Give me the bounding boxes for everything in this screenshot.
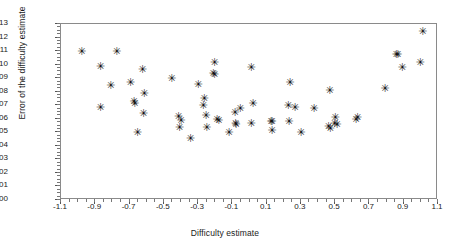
- x-axis-minor-tick: [360, 199, 361, 202]
- x-axis-minor-tick: [111, 199, 112, 202]
- data-point: ✳: [138, 63, 147, 74]
- data-point: ✳: [284, 116, 293, 127]
- y-axis-tick-label: 0.10: [0, 60, 8, 68]
- data-point: ✳: [214, 115, 223, 126]
- x-axis-minor-tick: [103, 199, 104, 202]
- x-axis-minor-tick: [317, 199, 318, 202]
- data-point: ✳: [140, 88, 149, 99]
- data-point: ✳: [397, 62, 406, 73]
- x-axis-minor-tick: [377, 199, 378, 202]
- data-point: ✳: [175, 121, 184, 132]
- y-axis-tick-label: 0.06: [0, 114, 8, 122]
- x-axis-minor-tick: [308, 199, 309, 202]
- x-axis-minor-tick: [69, 199, 70, 202]
- data-point: ✳: [77, 46, 86, 57]
- x-axis-minor-tick: [240, 199, 241, 202]
- data-point: ✳: [202, 121, 211, 132]
- y-axis-tick-label: 0.11: [0, 46, 8, 54]
- data-point: ✳: [267, 124, 276, 135]
- x-axis-minor-tick: [428, 199, 429, 202]
- data-point: ✳: [380, 82, 389, 93]
- data-point: ✳: [186, 132, 195, 143]
- y-axis-tick-label: 0.09: [0, 73, 8, 81]
- x-axis-minor-tick: [274, 199, 275, 202]
- x-axis-minor-tick: [171, 199, 172, 202]
- x-axis-minor-tick: [60, 199, 61, 202]
- x-axis-minor-tick: [403, 199, 404, 202]
- y-axis-tick-label: 0.00: [0, 195, 8, 203]
- x-axis-minor-tick: [437, 199, 438, 202]
- data-point: ✳: [167, 73, 176, 84]
- data-point: ✳: [247, 62, 256, 73]
- x-axis-minor-tick: [283, 199, 284, 202]
- data-point: ✳: [126, 77, 135, 88]
- x-axis-minor-tick: [137, 199, 138, 202]
- x-axis-title: Difficulty estimate: [0, 228, 450, 238]
- y-axis-tick-label: 0.02: [0, 168, 8, 176]
- y-axis-tick-label: 0.05: [0, 127, 8, 135]
- y-axis-tick-label: 0.01: [0, 181, 8, 189]
- data-point: ✳: [325, 85, 334, 96]
- data-point: ✳: [296, 127, 305, 138]
- data-point: ✳: [133, 127, 142, 138]
- x-axis-minor-tick: [146, 199, 147, 202]
- data-point: ✳: [201, 109, 210, 120]
- x-axis-minor-tick: [249, 199, 250, 202]
- data-point: ✳: [96, 101, 105, 112]
- scatter-plot-figure: Error of the difficulty estimate 0.000.0…: [0, 0, 450, 247]
- x-axis-minor-tick: [129, 199, 130, 202]
- x-axis-minor-tick: [300, 199, 301, 202]
- x-axis-minor-tick: [368, 199, 369, 202]
- data-point: ✳: [193, 78, 202, 89]
- data-point: ✳: [290, 101, 299, 112]
- x-axis-minor-tick: [257, 199, 258, 202]
- data-point: ✳: [309, 102, 318, 113]
- y-axis-title: Error of the difficulty estimate: [17, 0, 27, 153]
- x-axis-minor-tick: [266, 199, 267, 202]
- x-axis-minor-tick: [394, 199, 395, 202]
- x-axis-minor-tick: [223, 199, 224, 202]
- x-axis-minor-tick: [77, 199, 78, 202]
- x-axis-minor-tick: [351, 199, 352, 202]
- x-axis-minor-tick: [291, 199, 292, 202]
- x-axis-minor-tick: [231, 199, 232, 202]
- x-axis-minor-tick: [206, 199, 207, 202]
- y-axis-tick-label: 0.13: [0, 19, 8, 27]
- x-axis-minor-tick: [343, 199, 344, 202]
- data-point: ✳: [96, 60, 105, 71]
- data-point: ✳: [235, 102, 244, 113]
- data-point: ✳: [248, 97, 257, 108]
- data-point: ✳: [418, 25, 427, 36]
- data-point: ✳: [231, 119, 240, 130]
- x-axis-tick-label: 1.1: [417, 203, 450, 211]
- data-point: ✳: [393, 48, 402, 59]
- data-point: ✳: [285, 77, 294, 88]
- x-axis-minor-tick: [411, 199, 412, 202]
- x-axis-minor-tick: [334, 199, 335, 202]
- y-axis-tick-label: 0.03: [0, 154, 8, 162]
- data-point: ✳: [210, 69, 219, 80]
- y-axis-tick-label: 0.12: [0, 33, 8, 41]
- x-axis-minor-tick: [214, 199, 215, 202]
- x-axis-minor-tick: [386, 199, 387, 202]
- y-axis-tick-label: 0.04: [0, 141, 8, 149]
- x-axis-minor-tick: [120, 199, 121, 202]
- y-axis-tick-label: 0.08: [0, 87, 8, 95]
- data-point: ✳: [139, 108, 148, 119]
- data-point: ✳: [247, 117, 256, 128]
- x-axis-minor-tick: [180, 199, 181, 202]
- plot-area: ✳✳✳✳✳✳✳✳✳✳✳✳✳✳✳✳✳✳✳✳✳✳✳✳✳✳✳✳✳✳✳✳✳✳✳✳✳✳✳✳…: [60, 23, 437, 199]
- x-axis-minor-tick: [154, 199, 155, 202]
- x-axis-minor-tick: [420, 199, 421, 202]
- data-point: ✳: [353, 112, 362, 123]
- x-axis-minor-tick: [197, 199, 198, 202]
- x-axis-minor-tick: [94, 199, 95, 202]
- data-point: ✳: [332, 119, 341, 130]
- y-axis-tick-label: 0.07: [0, 100, 8, 108]
- data-point: ✳: [112, 46, 121, 57]
- data-point: ✳: [106, 79, 115, 90]
- data-point: ✳: [415, 56, 424, 67]
- x-axis-minor-tick: [86, 199, 87, 202]
- x-axis-minor-tick: [163, 199, 164, 202]
- x-axis-minor-tick: [189, 199, 190, 202]
